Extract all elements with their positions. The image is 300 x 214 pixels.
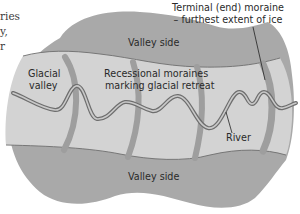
terminal-moraine-label-1: Terminal (end) moraine <box>171 2 284 13</box>
glacial-valley-label-2: valley <box>29 80 58 91</box>
river-label: River <box>226 132 251 143</box>
valley-side-top-label: Valley side <box>128 37 179 48</box>
recessional-moraines-label-1: Recessional moraines <box>104 68 208 79</box>
cut-text-line-3: r <box>0 40 6 52</box>
terminal-moraine-label-2: – furthest extent of ice <box>174 14 283 25</box>
cut-text-line-2: y, <box>0 25 8 37</box>
glacial-valley-diagram: ries y, r Terminal (end) moraine – furth… <box>0 0 300 214</box>
glacial-valley-label-1: Glacial <box>28 68 60 79</box>
valley-side-bottom-label: Valley side <box>128 171 179 182</box>
cut-text-line-1: ries <box>0 10 20 22</box>
recessional-moraines-label-2: marking glacial retreat <box>105 80 215 91</box>
